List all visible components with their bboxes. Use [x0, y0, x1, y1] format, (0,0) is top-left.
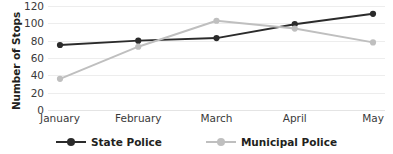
- legend-label: Municipal Police: [241, 136, 337, 148]
- y-tick-label-100: 100: [18, 18, 44, 28]
- data-point-municipal-police-january: [57, 76, 63, 82]
- data-point-state-police-may: [370, 11, 376, 17]
- y-tick-label-60: 60: [18, 53, 44, 63]
- x-tick-label-april: April: [283, 112, 307, 124]
- x-tick-label-march: March: [200, 112, 232, 124]
- data-point-municipal-police-may: [370, 39, 376, 45]
- data-point-state-police-january: [57, 42, 63, 48]
- x-tick-label-january: January: [40, 112, 80, 124]
- legend-marker-icon: [206, 137, 236, 147]
- chart-legend: State PoliceMunicipal Police: [0, 132, 393, 152]
- y-tick-label-80: 80: [18, 36, 44, 46]
- data-point-municipal-police-april: [292, 25, 298, 31]
- data-point-state-police-february: [135, 38, 141, 44]
- data-point-municipal-police-march: [213, 18, 219, 24]
- legend-item-state-police[interactable]: State Police: [56, 136, 162, 148]
- legend-marker-icon: [56, 137, 86, 147]
- data-point-state-police-march: [213, 35, 219, 41]
- line-chart: Number of Stops 120100806040200 JanuaryF…: [0, 0, 393, 154]
- x-tick-label-may: May: [362, 112, 384, 124]
- x-axis-tick-labels: JanuaryFebruaryMarchAprilMay: [48, 112, 385, 128]
- legend-label: State Police: [91, 136, 162, 148]
- x-tick-label-february: February: [115, 112, 162, 124]
- series-line-municipal-police: [60, 21, 373, 79]
- y-tick-label-120: 120: [18, 1, 44, 11]
- y-axis-tick-labels: 120100806040200: [14, 0, 44, 154]
- gridline-0: [48, 110, 385, 111]
- y-tick-label-20: 20: [18, 88, 44, 98]
- legend-item-municipal-police[interactable]: Municipal Police: [206, 136, 337, 148]
- y-tick-label-40: 40: [18, 70, 44, 80]
- series-layer: [48, 6, 385, 110]
- plot-area: [48, 6, 385, 110]
- data-point-municipal-police-february: [135, 44, 141, 50]
